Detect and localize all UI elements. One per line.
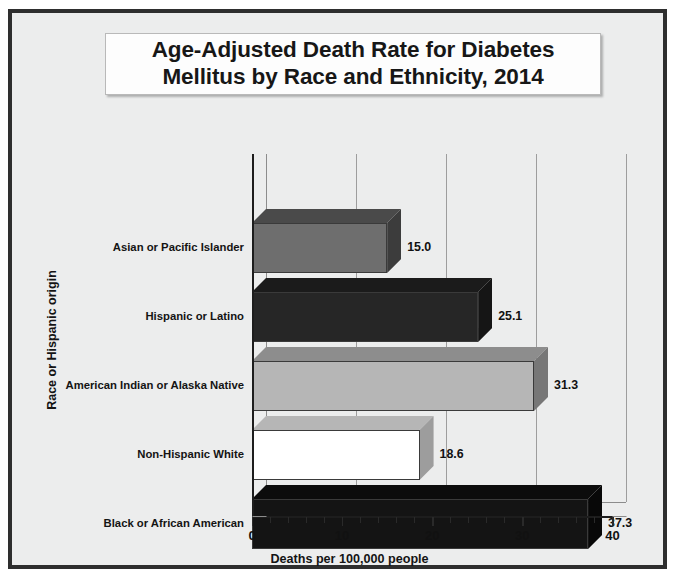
gridline-30 <box>536 154 537 502</box>
bar-top-face-3 <box>252 416 434 430</box>
category-label-1: Hispanic or Latino <box>34 310 244 322</box>
figure-border: Age-Adjusted Death Rate for Diabetes Mel… <box>8 9 667 569</box>
x-tick-30 <box>522 517 523 526</box>
x-tick-40 <box>612 517 613 526</box>
bar-value-label-3: 18.6 <box>440 447 464 461</box>
x-tick-8 <box>324 517 325 523</box>
bar-front-face-0[interactable] <box>252 223 387 273</box>
x-tick-14 <box>378 517 379 523</box>
category-label-3: Non-Hispanic White <box>34 448 244 460</box>
x-tick-28 <box>504 517 505 523</box>
bar-value-label-0: 15.0 <box>407 240 431 254</box>
x-tick-24 <box>468 517 469 523</box>
bar-value-label-2: 31.3 <box>554 378 578 392</box>
category-label-column: Asian or Pacific IslanderHispanic or Lat… <box>32 103 244 575</box>
bar-top-face-0 <box>252 209 401 223</box>
bar-4[interactable]: 37.3 <box>26 103 673 104</box>
x-tick-34 <box>558 517 559 523</box>
page-title: Age-Adjusted Death Rate for Diabetes Mel… <box>152 37 555 90</box>
category-label-2: American Indian or Alaska Native <box>34 379 244 391</box>
y-axis-line <box>252 154 254 516</box>
bar-top-face-2 <box>252 347 548 361</box>
plot-area: Race or Hispanic origin Asian or Pacific… <box>26 103 673 575</box>
bar-top-face-4 <box>252 485 602 499</box>
x-tick-label-0: 0 <box>232 528 272 543</box>
gridline-40 <box>626 154 627 502</box>
category-label-0: Asian or Pacific Islander <box>34 241 244 253</box>
chart-figure: Age-Adjusted Death Rate for Diabetes Mel… <box>0 0 675 578</box>
x-tick-26 <box>486 517 487 523</box>
x-tick-36 <box>576 517 577 523</box>
x-axis-title: Deaths per 100,000 people <box>26 552 673 566</box>
x-tick-38 <box>594 517 595 523</box>
end-depth-diagonal <box>612 502 641 517</box>
x-tick-10 <box>342 517 343 526</box>
chart-title-box: Age-Adjusted Death Rate for Diabetes Mel… <box>105 33 601 95</box>
x-tick-label-40: 40 <box>592 528 632 543</box>
x-tick-16 <box>396 517 397 523</box>
bar-front-face-3[interactable] <box>252 430 420 480</box>
bar-top-face-1 <box>252 278 492 292</box>
x-tick-32 <box>540 517 541 523</box>
x-tick-20 <box>432 517 433 526</box>
x-tick-22 <box>450 517 451 523</box>
x-tick-6 <box>306 517 307 523</box>
x-tick-0 <box>252 517 253 526</box>
x-tick-4 <box>288 517 289 523</box>
bar-front-face-2[interactable] <box>252 361 534 411</box>
x-tick-18 <box>414 517 415 523</box>
bar-value-label-1: 25.1 <box>498 309 522 323</box>
x-tick-12 <box>360 517 361 523</box>
category-label-4: Black or African American <box>34 517 244 529</box>
x-tick-label-10: 10 <box>322 528 362 543</box>
x-tick-label-20: 20 <box>412 528 452 543</box>
x-tick-2 <box>270 517 271 523</box>
bar-front-face-1[interactable] <box>252 292 478 342</box>
x-tick-label-30: 30 <box>502 528 542 543</box>
